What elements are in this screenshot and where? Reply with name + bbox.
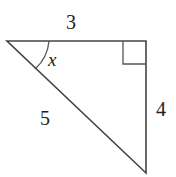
triangle	[7, 41, 146, 173]
right-angle-marker	[123, 41, 146, 64]
side-label-top: 3	[66, 11, 76, 33]
angle-arc	[35, 41, 49, 69]
angle-label: x	[47, 49, 57, 70]
side-label-right: 4	[156, 98, 166, 120]
side-label-hypotenuse: 5	[40, 107, 50, 129]
triangle-diagram: 3 4 5 x	[0, 0, 176, 177]
